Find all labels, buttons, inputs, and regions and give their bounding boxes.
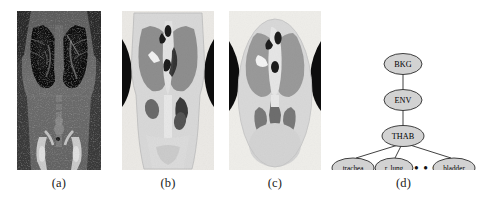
node-thab-label: THAB (392, 132, 415, 141)
panel-d-caption: (d) (330, 176, 477, 191)
idealized-segmentation-image (229, 11, 321, 170)
panel-c-idealized-segmentation (229, 11, 321, 170)
tree-node-bkg[interactable]: BKG (384, 54, 422, 75)
ct-segmented-image (122, 11, 214, 170)
edge-thab-bladder (410, 145, 451, 158)
panel-c-caption: (c) (229, 176, 321, 191)
tree-node-bladder[interactable]: bladder (433, 158, 475, 170)
tree-node-env[interactable]: ENV (384, 90, 422, 111)
node-bladder-label: bladder (443, 165, 465, 171)
node-r-lung-label: r. lung (385, 165, 404, 171)
anatomy-hierarchy-tree: BKG ENV THAB trachea r. lung (330, 11, 477, 170)
panel-b-segmented-ct (122, 11, 214, 170)
ct-original-image (17, 11, 101, 170)
figure-container: (a) (0, 0, 477, 206)
tree-node-trachea[interactable]: trachea (332, 158, 374, 170)
tree-node-r-lung[interactable]: r. lung (375, 158, 413, 170)
panel-d-tree-diagram: BKG ENV THAB trachea r. lung (330, 11, 477, 170)
tree-node-thab[interactable]: THAB (382, 126, 424, 147)
panel-b-caption: (b) (122, 176, 214, 191)
node-trachea-label: trachea (343, 165, 365, 171)
panel-a-caption: (a) (17, 176, 101, 191)
node-bkg-label: BKG (394, 60, 411, 69)
node-env-label: ENV (395, 96, 412, 105)
edge-thab-trachea (356, 145, 398, 158)
panel-a-original-ct (17, 11, 101, 170)
edge-thab-rlung (395, 146, 401, 158)
